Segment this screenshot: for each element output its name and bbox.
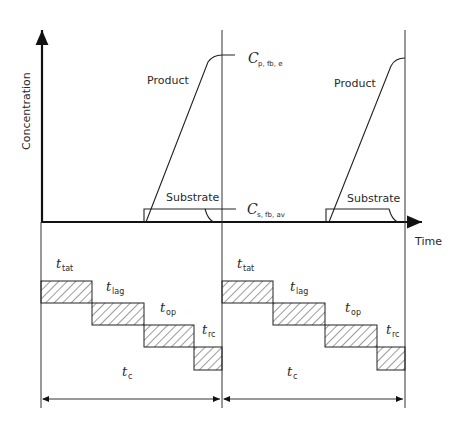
svg-text:tat: tat — [62, 264, 73, 273]
cp-level-label: C p, fb, e — [248, 50, 283, 68]
svg-text:c: c — [293, 372, 297, 381]
gantt-cycle-2 — [222, 281, 405, 370]
label-t-tat-1: t tat — [56, 256, 73, 273]
bar-tat-2 — [222, 281, 273, 303]
product-label-2: Product — [334, 77, 376, 90]
bar-tat-1 — [41, 281, 92, 303]
bar-lag-1 — [92, 303, 144, 325]
substrate-label-1: Substrate — [166, 191, 220, 204]
x-axis-label: Time — [414, 235, 442, 248]
label-t-tat-2: t tat — [237, 256, 254, 273]
label-t-c-1: t c — [122, 364, 132, 381]
batch-cycle-diagram: Concentration Time Product Substrate Pro… — [0, 0, 458, 424]
substrate-label-2: Substrate — [347, 192, 401, 205]
svg-text:lag: lag — [296, 287, 308, 296]
svg-text:s, fb, av: s, fb, av — [257, 211, 285, 219]
y-axis-label: Concentration — [20, 72, 33, 150]
bar-op-1 — [144, 325, 194, 347]
label-t-lag-1: t lag — [106, 279, 124, 296]
bar-lag-2 — [273, 303, 325, 325]
label-t-op-2: t op — [345, 300, 361, 317]
substrate-curve-cycle-2 — [326, 209, 398, 222]
svg-text:rc: rc — [208, 330, 216, 339]
svg-text:p, fb, e: p, fb, e — [258, 60, 283, 68]
label-t-rc-1: t rc — [202, 322, 216, 339]
svg-text:tat: tat — [243, 264, 254, 273]
svg-text:op: op — [166, 308, 176, 317]
product-label-1: Product — [147, 74, 189, 87]
bar-op-2 — [325, 325, 377, 347]
label-t-c-2: t c — [287, 364, 297, 381]
bar-rc-1 — [194, 347, 222, 370]
gantt-cycle-1 — [41, 281, 222, 370]
svg-text:lag: lag — [112, 287, 124, 296]
label-t-op-1: t op — [160, 300, 176, 317]
svg-text:op: op — [351, 308, 361, 317]
svg-text:c: c — [128, 372, 132, 381]
cs-level-label: C s, fb, av — [247, 201, 285, 219]
svg-text:rc: rc — [392, 330, 400, 339]
bar-rc-2 — [377, 347, 405, 370]
label-t-rc-2: t rc — [386, 322, 400, 339]
label-t-lag-2: t lag — [290, 279, 308, 296]
